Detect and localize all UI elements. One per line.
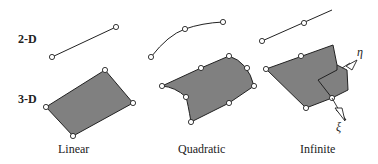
infinite-3d-element — [263, 45, 357, 121]
quadratic-3d-element — [159, 53, 256, 124]
column-label-linear: Linear — [58, 142, 89, 157]
xi-label: ξ — [336, 120, 341, 135]
eta-label: η — [357, 45, 363, 60]
element-diagram — [0, 0, 378, 164]
linear-3d-element — [43, 67, 135, 138]
column-label-quadratic: Quadratic — [178, 142, 225, 157]
linear-2d-element — [49, 24, 118, 59]
infinite-2d-element — [259, 10, 332, 44]
column-label-infinite: Infinite — [300, 142, 335, 157]
quadratic-2d-element — [148, 19, 225, 59]
